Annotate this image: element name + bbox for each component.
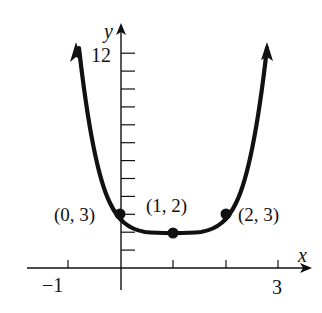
point-0-3 — [115, 209, 126, 220]
point-label-2-3: (2, 3) — [238, 204, 279, 226]
point-1-2 — [168, 228, 179, 239]
x-axis-label: x — [297, 244, 307, 266]
function-graph: y 12 x −1 3 (0, 3) (1, 2) (2, 3) — [0, 0, 322, 313]
x-tick-label-3: 3 — [272, 276, 282, 298]
y-axis-label: y — [102, 20, 113, 43]
y-tick-label-12: 12 — [91, 44, 111, 66]
point-label-0-3: (0, 3) — [54, 204, 95, 226]
point-label-1-2: (1, 2) — [146, 195, 187, 217]
x-tick-label-neg1: −1 — [42, 274, 63, 296]
x-ticks — [68, 260, 278, 268]
point-2-3 — [221, 209, 232, 220]
